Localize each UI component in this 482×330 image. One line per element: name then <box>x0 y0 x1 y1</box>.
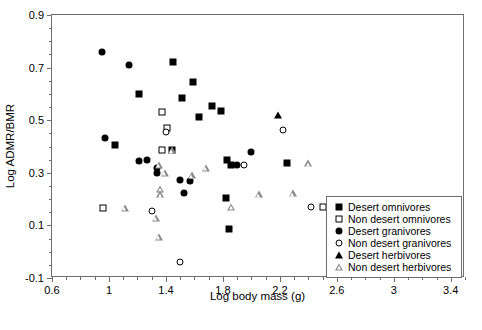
data-point-filled-circle <box>125 61 132 68</box>
data-point-open-triangle <box>161 169 169 176</box>
y-axis-tick <box>49 199 52 200</box>
y-axis-tick <box>49 147 52 148</box>
data-point-filled-circle <box>135 157 142 164</box>
legend-item-label: Desert herbivores <box>348 249 431 261</box>
x-axis-tick <box>209 277 210 280</box>
data-point-filled-triangle <box>335 252 343 259</box>
data-point-filled-square <box>222 194 229 201</box>
y-axis-tick-label: 0.3 <box>29 167 44 178</box>
data-point-open-triangle <box>121 204 129 211</box>
data-point-filled-square <box>170 58 177 65</box>
data-point-open-triangle <box>202 165 210 172</box>
x-axis-tick <box>308 277 309 280</box>
y-axis-tick <box>49 133 52 134</box>
y-axis-tick <box>49 160 52 161</box>
data-point-open-square <box>158 146 165 153</box>
y-axis-tick <box>49 94 52 95</box>
x-axis-tick <box>123 277 124 280</box>
data-point-open-triangle <box>155 234 163 241</box>
y-axis-tick <box>49 265 52 266</box>
y-axis-tick-label: 0.1 <box>29 220 44 231</box>
x-axis-tick <box>194 277 195 280</box>
x-axis-tick <box>294 277 295 280</box>
data-point-filled-square <box>135 90 142 97</box>
legend-marker-filled-triangle-icon <box>330 249 348 261</box>
data-point-filled-square <box>225 225 232 232</box>
legend-item-3[interactable]: Non desert granivores <box>330 237 458 249</box>
legend: Desert omnivoresNon desert omnivoresDese… <box>326 196 462 278</box>
data-point-open-square <box>336 216 343 223</box>
x-axis-tick <box>80 277 81 280</box>
y-axis-tick <box>49 212 52 213</box>
data-point-filled-square <box>189 79 196 86</box>
data-point-filled-circle <box>101 135 108 142</box>
legend-item-1[interactable]: Non desert omnivores <box>330 213 458 225</box>
legend-item-4[interactable]: Desert herbivores <box>330 249 458 261</box>
x-axis-tick <box>465 277 466 280</box>
data-point-filled-circle <box>181 190 188 197</box>
data-point-filled-square <box>195 114 202 121</box>
data-point-filled-square <box>208 102 215 109</box>
data-point-filled-square <box>336 204 343 211</box>
y-axis-tick <box>47 278 52 279</box>
y-axis-tick <box>49 28 52 29</box>
data-point-open-triangle <box>152 214 160 221</box>
data-point-open-circle <box>241 161 248 168</box>
y-axis-tick <box>47 225 52 226</box>
data-point-filled-circle <box>98 48 105 55</box>
legend-marker-open-circle-icon <box>330 237 348 249</box>
y-axis-tick <box>49 54 52 55</box>
data-point-open-triangle <box>304 160 312 167</box>
data-point-filled-square <box>178 95 185 102</box>
x-axis-tick <box>323 277 324 280</box>
x-axis-tick <box>95 277 96 280</box>
legend-item-0[interactable]: Desert omnivores <box>330 201 458 213</box>
y-axis-tick <box>49 41 52 42</box>
data-point-filled-circle <box>177 176 184 183</box>
y-axis-tick <box>49 239 52 240</box>
legend-item-label: Non desert herbivores <box>348 261 451 273</box>
data-point-open-triangle <box>155 161 163 168</box>
data-point-open-circle <box>279 127 286 134</box>
y-axis-tick <box>47 68 52 69</box>
data-point-open-triangle <box>227 203 235 210</box>
data-point-open-triangle <box>168 147 176 154</box>
y-axis-title-label: Log ADMR/BMR <box>4 103 16 187</box>
y-axis-title: Log ADMR/BMR <box>2 14 18 277</box>
y-axis-tick <box>47 120 52 121</box>
y-axis-tick <box>49 81 52 82</box>
y-axis-tick-label: -0.1 <box>25 273 44 284</box>
legend-item-5[interactable]: Non desert herbivores <box>330 261 458 273</box>
legend-marker-open-square-icon <box>330 213 348 225</box>
legend-item-label: Desert omnivores <box>348 201 430 213</box>
legend-item-label: Non desert granivores <box>348 237 451 249</box>
data-point-open-circle <box>308 203 315 210</box>
x-axis-tick <box>52 277 53 282</box>
x-axis-tick <box>152 277 153 280</box>
data-point-open-circle <box>336 240 343 247</box>
y-axis-tick <box>47 15 52 16</box>
y-axis-tick <box>47 173 52 174</box>
legend-item-2[interactable]: Desert granivores <box>330 225 458 237</box>
x-axis-title: Log body mass (g) <box>51 290 464 302</box>
data-point-open-square <box>100 204 107 211</box>
legend-item-label: Non desert omnivores <box>348 213 451 225</box>
x-axis-tick <box>223 277 224 282</box>
data-point-filled-circle <box>248 149 255 156</box>
x-axis-tick <box>137 277 138 280</box>
legend-marker-filled-circle-icon <box>330 225 348 237</box>
x-axis-tick <box>166 277 167 282</box>
data-point-open-triangle <box>156 191 164 198</box>
y-axis-tick <box>49 186 52 187</box>
x-axis-tick <box>237 277 238 280</box>
y-axis-tick-label: 0.7 <box>29 62 44 73</box>
data-point-filled-circle <box>336 228 343 235</box>
data-point-open-triangle <box>289 190 297 197</box>
x-axis-tick <box>180 277 181 280</box>
y-axis-tick-label: 0.5 <box>29 115 44 126</box>
data-point-open-triangle <box>335 264 343 271</box>
x-axis-tick <box>109 277 110 282</box>
data-point-open-square <box>158 109 165 116</box>
data-point-filled-circle <box>144 157 151 164</box>
y-axis-tick-label: 0.9 <box>29 10 44 21</box>
